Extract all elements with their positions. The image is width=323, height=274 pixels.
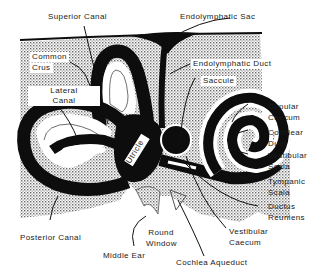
label-cochlea-aqueduct: Cochlea Aqueduct <box>176 258 247 268</box>
label-round-window-line1: Round <box>146 228 176 238</box>
label-tympanic-scala-line2: Scala <box>268 188 290 198</box>
label-ductus-reuniens-line1: Ductus <box>268 202 295 212</box>
label-round-window-line2: Window <box>146 239 176 249</box>
saccule <box>161 125 191 155</box>
label-vestibular-caecum-line2: Caecum <box>229 238 261 248</box>
label-superior-canal: Superior Canal <box>48 12 107 22</box>
label-vestibular-caecum-line1: Vestibular <box>229 227 268 237</box>
label-endolymphatic-sac: Endolymphatic Sac <box>180 12 255 22</box>
label-lateral-canal-line2: Canal <box>28 96 100 106</box>
label-middle-ear: Middle Ear <box>103 251 145 261</box>
label-saccule: Saccule <box>201 76 236 86</box>
label-vestibular-scala-line2: Scala <box>268 162 290 172</box>
label-tympanic-scala-line1: Tympanic <box>268 177 305 187</box>
label-ductus-reuniens-line2: Reuniens <box>268 213 305 223</box>
round-window <box>136 186 160 214</box>
label-cochlear-duct-line1: Cochlear <box>268 128 303 138</box>
label-common-crus-line2: Crus <box>30 63 53 73</box>
label-common-crus-line1: Common <box>30 52 69 62</box>
label-posterior-canal: Posterior Canal <box>20 233 81 243</box>
label-cupular-caecum-line1: Cupular <box>268 102 299 112</box>
label-cupular-caecum-line2: Caecum <box>268 113 300 123</box>
label-lateral-canal-line1: Lateral <box>28 86 100 96</box>
label-cochlear-duct-line2: Duct <box>268 139 286 149</box>
label-vestibular-scala-line1: Vestibular <box>268 151 307 161</box>
label-endolymphatic-duct: Endolymphatic Duct <box>191 59 273 69</box>
